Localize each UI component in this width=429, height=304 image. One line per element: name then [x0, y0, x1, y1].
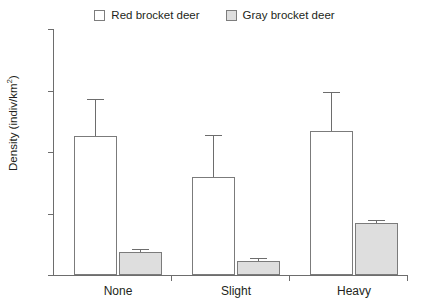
error-bar-cap-red-brocket-deer-heavy	[323, 92, 340, 93]
y-tick-0-5	[48, 214, 53, 215]
x-axis-label-slight: Slight	[221, 284, 251, 298]
bar-gray-brocket-deer-heavy	[355, 223, 398, 275]
bar-red-brocket-deer-slight	[192, 177, 235, 275]
error-bar-line-red-brocket-deer-heavy	[331, 92, 332, 131]
bar-red-brocket-deer-none	[74, 136, 117, 275]
y-tick-0	[48, 275, 53, 276]
error-bar-line-red-brocket-deer-slight	[213, 135, 214, 177]
bar-gray-brocket-deer-none	[119, 252, 162, 275]
x-axis-label-heavy: Heavy	[337, 284, 371, 298]
y-axis-title-close: )	[7, 75, 19, 79]
legend-entry-red-brocket-deer: Red brocket deer	[94, 9, 199, 21]
x-tick-separator-1	[171, 276, 172, 281]
y-axis-title-base: Density (indiv/km	[7, 83, 19, 171]
plot-area: 2 1.5 1 0.5 0 None Slight	[53, 29, 408, 275]
x-tick-separator-3	[407, 276, 408, 281]
y-tick-1	[48, 152, 53, 153]
x-axis-line	[53, 275, 408, 276]
legend-label-red-brocket-deer: Red brocket deer	[111, 9, 199, 21]
clipped-caption-sliver	[112, 0, 322, 4]
y-axis-line	[53, 29, 54, 275]
error-bar-line-red-brocket-deer-none	[95, 99, 96, 136]
legend-swatch-gray-brocket-deer	[226, 10, 237, 21]
y-axis-title: Density (indiv/km2)	[2, 0, 18, 246]
bar-gray-brocket-deer-slight	[237, 261, 280, 275]
error-bar-cap-gray-brocket-deer-none	[132, 249, 149, 250]
legend-entry-gray-brocket-deer: Gray brocket deer	[226, 9, 335, 21]
error-bar-cap-red-brocket-deer-none	[87, 99, 104, 100]
bar-red-brocket-deer-heavy	[310, 131, 353, 275]
y-axis-title-exponent: 2	[5, 79, 14, 83]
error-bar-cap-red-brocket-deer-slight	[205, 135, 222, 136]
legend-swatch-red-brocket-deer	[94, 10, 105, 21]
error-bar-cap-gray-brocket-deer-heavy	[368, 220, 385, 221]
x-tick-separator-2	[289, 276, 290, 281]
error-bar-cap-gray-brocket-deer-slight	[250, 258, 267, 259]
y-tick-1-5	[48, 91, 53, 92]
chart-figure: Red brocket deer Gray brocket deer Densi…	[0, 0, 429, 304]
x-axis-label-none: None	[104, 284, 133, 298]
y-tick-2	[48, 29, 53, 30]
chart-legend: Red brocket deer Gray brocket deer	[0, 9, 429, 21]
legend-label-gray-brocket-deer: Gray brocket deer	[243, 9, 335, 21]
